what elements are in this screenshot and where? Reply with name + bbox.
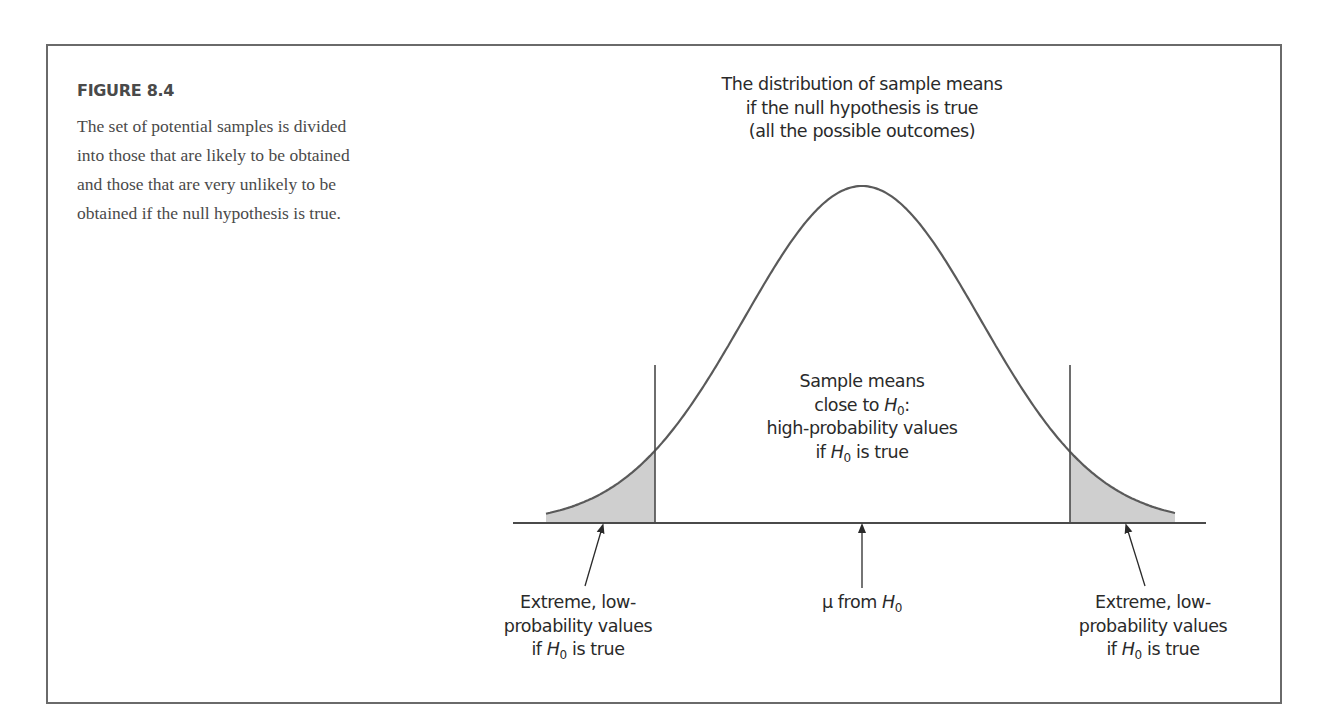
center-label-line-4: if H0 is true (712, 441, 1012, 465)
left-tail-line-3: if H0 is true (468, 638, 688, 662)
left-tail-arrow (585, 528, 602, 586)
text: μ from (822, 592, 882, 612)
left-tail-shaded-region (546, 451, 655, 523)
h0-symbol: H (547, 639, 560, 659)
subscript: 0 (1135, 648, 1142, 662)
text: is true (567, 639, 625, 659)
text: : (904, 395, 910, 415)
distribution-title-line-2: if the null hypothesis is true (662, 97, 1062, 121)
left-tail-label: Extreme, low- probability values if H0 i… (468, 591, 688, 662)
h0-symbol: H (882, 592, 895, 612)
subscript: 0 (560, 648, 567, 662)
right-tail-line-3: if H0 is true (1043, 638, 1263, 662)
subscript: 0 (844, 451, 851, 465)
distribution-title-line-3: (all the possible outcomes) (662, 120, 1062, 144)
text: if (1106, 639, 1121, 659)
center-label-line-2: close to H0: (712, 394, 1012, 418)
mean-label: μ from H0 (792, 591, 932, 615)
h0-symbol: H (831, 442, 844, 462)
text: is true (1142, 639, 1200, 659)
mean-label-line: μ from H0 (792, 591, 932, 615)
left-tail-line-2: probability values (468, 615, 688, 639)
center-label-line-1: Sample means (712, 370, 1012, 394)
text: is true (851, 442, 909, 462)
distribution-title-label: The distribution of sample means if the … (662, 73, 1062, 144)
right-tail-label: Extreme, low- probability values if H0 i… (1043, 591, 1263, 662)
left-tail-line-1: Extreme, low- (468, 591, 688, 615)
right-tail-arrow (1127, 528, 1145, 586)
distribution-title-line-1: The distribution of sample means (662, 73, 1062, 97)
text: if (531, 639, 546, 659)
subscript: 0 (895, 601, 902, 615)
text: close to (814, 395, 884, 415)
text: if (815, 442, 830, 462)
h0-symbol: H (884, 395, 897, 415)
right-tail-line-2: probability values (1043, 615, 1263, 639)
center-label-line-3: high-probability values (712, 417, 1012, 441)
right-tail-line-1: Extreme, low- (1043, 591, 1263, 615)
center-region-label: Sample means close to H0: high-probabili… (712, 370, 1012, 464)
h0-symbol: H (1122, 639, 1135, 659)
right-tail-shaded-region (1070, 452, 1175, 523)
